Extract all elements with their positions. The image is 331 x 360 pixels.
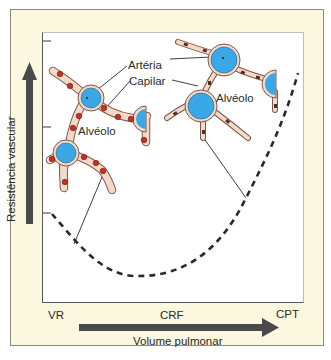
x-tick-cpt: CPT [276,309,299,321]
diagram-graphics [0,0,331,360]
high-volume-inset [167,42,277,138]
y-axis-ticks [42,41,51,213]
label-capilar: Capilar [129,76,165,88]
x-tick-crf: CRF [160,310,184,322]
label-alveolo-right: Alvéolo [216,93,254,105]
arteria-pointer-dot-right [222,57,224,59]
label-arteria: Artéria [128,60,162,72]
label-alveolo-left: Alvéolo [78,126,116,138]
x-axis-label: Volume pulmonar [133,336,223,348]
y-axis-arrow [22,62,37,224]
arteria-pointer-dot [86,97,88,99]
y-axis-label: Resistência vascular [6,117,18,222]
x-tick-vr: VR [48,310,64,322]
